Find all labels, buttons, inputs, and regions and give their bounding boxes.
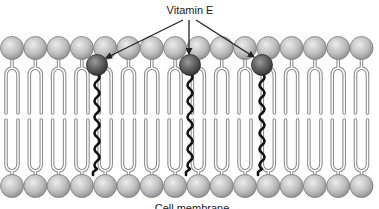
bottom-phospholipid-head [303, 175, 326, 198]
bottom-phospholipid-head [350, 175, 373, 198]
bottom-phospholipid-head [257, 175, 280, 198]
vitamin-e-label: Vitamin E [167, 4, 214, 16]
top-phospholipid-head [1, 37, 24, 60]
top-phospholipid-head [47, 37, 70, 60]
bottom-phospholipid-head [164, 175, 187, 198]
cell-membrane-diagram [0, 0, 379, 209]
bottom-phospholipid-head [117, 175, 140, 198]
top-phospholipid-head [24, 37, 47, 60]
bottom-phospholipid-head [47, 175, 70, 198]
bottom-phospholipid-head [280, 175, 303, 198]
top-phospholipid-head [303, 37, 326, 60]
bottom-phospholipid-head [140, 175, 163, 198]
bottom-phospholipid-head [94, 175, 117, 198]
vitamin-e-head [87, 55, 108, 76]
bottom-phospholipid-head [1, 175, 24, 198]
top-phospholipid-head [280, 37, 303, 60]
bottom-phospholipid-head [327, 175, 350, 198]
vitamin-e-head [180, 55, 201, 76]
bottom-phospholipid-head [70, 175, 93, 198]
bottom-phospholipid-head [234, 175, 257, 198]
vitamin-e-head [252, 55, 273, 76]
top-phospholipid-head [210, 37, 233, 60]
bottom-phospholipid-head [210, 175, 233, 198]
top-phospholipid-head [350, 37, 373, 60]
top-phospholipid-head [327, 37, 350, 60]
top-phospholipid-head [70, 37, 93, 60]
cell-membrane-caption: Cell membrane [155, 202, 230, 209]
bottom-phospholipid-head [187, 175, 210, 198]
top-phospholipid-head [117, 37, 140, 60]
bottom-phospholipid-head [24, 175, 47, 198]
top-phospholipid-head [164, 37, 187, 60]
